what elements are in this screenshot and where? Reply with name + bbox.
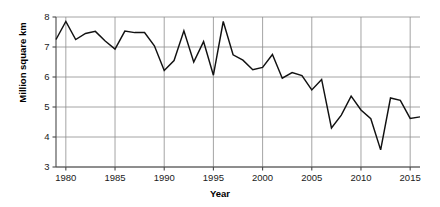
- vertical-gridlines: [66, 17, 410, 167]
- x-tick-label: 1980: [55, 172, 76, 183]
- y-tick-label: 3: [44, 161, 49, 172]
- y-tick-label: 4: [44, 131, 49, 142]
- line-chart-plot: 345678 19801985199019952000200520102015: [0, 0, 440, 207]
- y-tick-label: 8: [44, 11, 49, 22]
- x-tick-label: 1990: [154, 172, 175, 183]
- chart-container: Million square km Year 345678 1980198519…: [0, 0, 440, 207]
- x-axis-ticks: 19801985199019952000200520102015: [55, 167, 420, 183]
- x-tick-label: 1995: [203, 172, 224, 183]
- x-tick-label: 2005: [301, 172, 322, 183]
- y-tick-label: 7: [44, 41, 49, 52]
- y-tick-label: 5: [44, 101, 49, 112]
- x-tick-label: 2015: [400, 172, 421, 183]
- x-tick-label: 2010: [350, 172, 371, 183]
- x-tick-label: 2000: [252, 172, 273, 183]
- sea-ice-extent-line: [56, 22, 420, 150]
- y-tick-label: 6: [44, 71, 49, 82]
- x-tick-label: 1985: [104, 172, 125, 183]
- y-axis-ticks: 345678: [44, 11, 56, 172]
- horizontal-gridlines: [56, 17, 420, 167]
